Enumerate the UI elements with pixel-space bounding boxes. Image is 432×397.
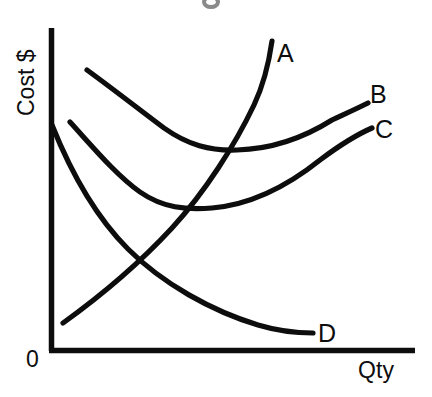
chart-background xyxy=(0,0,432,397)
curve-label-a: A xyxy=(277,39,294,67)
cost-curve-figure: Cost $ Qty 0 A B C D xyxy=(0,0,432,397)
cost-curve-chart: Cost $ Qty 0 A B C D xyxy=(0,0,432,397)
y-axis-label: Cost $ xyxy=(13,49,39,116)
x-axis-label: Qty xyxy=(358,357,394,383)
origin-label: 0 xyxy=(26,346,39,372)
curve-label-c: C xyxy=(375,115,393,143)
curve-label-b: B xyxy=(370,80,387,108)
curve-label-d: D xyxy=(318,319,336,347)
